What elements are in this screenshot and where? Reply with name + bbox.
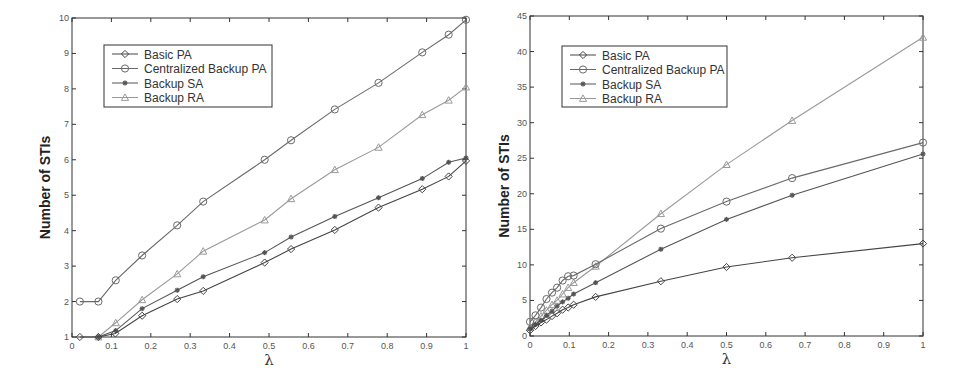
series-backup-ra <box>95 84 470 340</box>
data-point-star-icon <box>560 299 565 304</box>
x-tick-label: 0.5 <box>720 340 733 350</box>
series-line <box>80 161 466 337</box>
x-tick-label: 0.3 <box>184 341 197 351</box>
x-tick-label: 0.6 <box>760 340 773 350</box>
data-point-star-icon <box>566 296 571 301</box>
legend-label: Basic PA <box>144 48 192 62</box>
chart-1: 00.10.20.30.40.50.60.70.80.9112345678910… <box>37 13 470 369</box>
x-tick-label: 0.8 <box>381 341 394 351</box>
x-axis-title: λ <box>264 351 274 369</box>
y-tick-label: 45 <box>517 11 527 21</box>
x-tick-label: 1 <box>920 340 925 350</box>
data-point-star-icon <box>446 160 451 165</box>
data-point-star-icon <box>289 235 294 240</box>
series-basic-pa <box>76 157 469 340</box>
x-tick-label: 0.7 <box>342 341 355 351</box>
y-tick-label: 15 <box>517 224 527 234</box>
data-point-star-icon <box>420 176 425 181</box>
legend-label: Centralized Backup PA <box>144 62 267 76</box>
legend-label: Basic PA <box>602 49 650 63</box>
x-tick-label: 0.2 <box>145 341 158 351</box>
x-tick-label: 0 <box>527 340 532 350</box>
x-tick-label: 0 <box>69 341 74 351</box>
data-point-star-icon <box>175 288 180 293</box>
data-point-star-icon <box>921 151 926 156</box>
y-tick-label: 35 <box>517 82 527 92</box>
y-axis-title: Number of STIs <box>496 134 512 238</box>
data-point-star-icon <box>658 247 663 252</box>
legend: Basic PACentralized Backup PABackup SABa… <box>562 46 727 107</box>
y-tick-label: 20 <box>517 189 527 199</box>
data-point-star-icon <box>571 292 576 297</box>
y-tick-label: 25 <box>517 153 527 163</box>
y-axis-title: Number of STIs <box>37 136 53 240</box>
y-tick-label: 9 <box>64 48 69 58</box>
y-tick-label: 2 <box>64 297 69 307</box>
y-tick-label: 4 <box>64 226 69 236</box>
legend-label: Backup SA <box>144 77 203 91</box>
y-tick-label: 5 <box>522 295 527 305</box>
series-centralized-backup-pa <box>526 139 926 325</box>
y-tick-label: 10 <box>59 13 69 23</box>
data-point-star-icon <box>790 193 795 198</box>
series-line <box>530 244 923 331</box>
x-tick-label: 0.6 <box>302 341 315 351</box>
x-axis-title: λ <box>722 350 732 368</box>
data-point-star-icon <box>262 250 267 255</box>
legend-star-icon <box>123 81 128 86</box>
data-point-star-icon <box>464 156 469 161</box>
data-point-star-icon <box>555 304 560 309</box>
y-tick-label: 8 <box>64 84 69 94</box>
data-point-star-icon <box>376 195 381 200</box>
legend-label: Centralized Backup PA <box>602 63 725 77</box>
data-point-star-icon <box>724 217 729 222</box>
x-tick-label: 0.8 <box>838 340 851 350</box>
x-tick-label: 0.4 <box>223 341 236 351</box>
y-tick-label: 7 <box>64 119 69 129</box>
x-tick-label: 0.5 <box>263 341 276 351</box>
series-line <box>530 143 923 322</box>
series-backup-sa <box>528 151 926 331</box>
y-tick-label: 10 <box>517 260 527 270</box>
x-tick-label: 0.9 <box>420 341 433 351</box>
y-tick-label: 3 <box>64 261 69 271</box>
data-point-star-icon <box>201 274 206 279</box>
legend-label: Backup RA <box>144 91 204 105</box>
figure-canvas: 00.10.20.30.40.50.60.70.80.9112345678910… <box>0 0 966 377</box>
x-tick-label: 0.9 <box>877 340 890 350</box>
data-point-star-icon <box>593 280 598 285</box>
legend-label: Backup RA <box>602 92 662 106</box>
legend-star-icon <box>581 82 586 87</box>
y-tick-label: 1 <box>64 332 69 342</box>
series-line <box>530 154 923 329</box>
x-tick-label: 1 <box>463 341 468 351</box>
x-tick-label: 0.1 <box>105 341 118 351</box>
x-tick-label: 0.2 <box>602 340 615 350</box>
y-tick-label: 0 <box>522 331 527 341</box>
legend-label: Backup SA <box>602 78 661 92</box>
x-tick-label: 0.1 <box>563 340 576 350</box>
data-point-star-icon <box>332 214 337 219</box>
x-tick-label: 0.3 <box>642 340 655 350</box>
x-tick-label: 0.7 <box>799 340 812 350</box>
data-point-star-icon <box>140 306 145 311</box>
chart-2: 00.10.20.30.40.50.60.70.80.9105101520253… <box>496 11 927 368</box>
x-tick-label: 0.4 <box>681 340 694 350</box>
series-line <box>98 87 466 337</box>
y-tick-label: 40 <box>517 47 527 57</box>
y-tick-label: 5 <box>64 190 69 200</box>
y-tick-label: 6 <box>64 155 69 165</box>
y-tick-label: 30 <box>517 118 527 128</box>
legend: Basic PACentralized Backup PABackup SABa… <box>104 45 272 107</box>
